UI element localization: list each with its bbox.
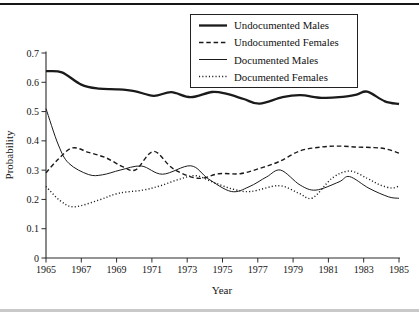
legend-item: Documented Females xyxy=(198,68,357,85)
x-tick-label: 1967 xyxy=(71,264,91,275)
series-line-documented-males xyxy=(46,109,399,199)
figure: 00.10.20.30.40.50.60.7196519671969197119… xyxy=(0,0,419,314)
x-axis-title: Year xyxy=(212,284,233,296)
legend-item: Undocumented Females xyxy=(198,34,357,51)
legend-label: Undocumented Males xyxy=(234,19,329,31)
legend-label: Documented Females xyxy=(234,71,328,83)
series-line-documented-females xyxy=(46,171,399,207)
solid-thick-line-sample-icon xyxy=(198,20,228,31)
legend-label: Undocumented Females xyxy=(234,36,339,48)
y-tick-label: 0.1 xyxy=(27,223,40,234)
y-tick-label: 0.2 xyxy=(27,194,40,205)
solid-thin-line-sample-icon xyxy=(198,54,228,65)
legend-item: Undocumented Males xyxy=(198,17,357,34)
legend: Undocumented Males Undocumented Females … xyxy=(190,14,358,88)
y-axis-title: Probability xyxy=(3,130,15,179)
x-tick-label: 1977 xyxy=(248,264,268,275)
y-tick-label: 0.7 xyxy=(27,48,40,59)
y-tick-label: 0.3 xyxy=(27,165,40,176)
series-line-undocumented-females xyxy=(46,146,399,178)
legend-item: Documented Males xyxy=(198,51,357,68)
x-tick-label: 1981 xyxy=(318,264,338,275)
x-tick-label: 1975 xyxy=(213,264,233,275)
y-tick-label: 0.5 xyxy=(27,106,40,117)
bottom-rule xyxy=(0,309,419,312)
x-tick-label: 1985 xyxy=(389,264,409,275)
x-tick-label: 1965 xyxy=(36,264,56,275)
x-tick-label: 1969 xyxy=(107,264,127,275)
y-tick-label: 0 xyxy=(34,253,39,264)
x-tick-label: 1971 xyxy=(142,264,162,275)
x-tick-label: 1979 xyxy=(283,264,303,275)
x-tick-label: 1983 xyxy=(354,264,374,275)
dotted-line-sample-icon xyxy=(198,71,228,82)
dashed-line-sample-icon xyxy=(198,37,228,48)
y-tick-label: 0.4 xyxy=(27,135,40,146)
y-tick-label: 0.6 xyxy=(27,77,40,88)
legend-label: Documented Males xyxy=(234,54,318,66)
x-tick-label: 1973 xyxy=(177,264,197,275)
